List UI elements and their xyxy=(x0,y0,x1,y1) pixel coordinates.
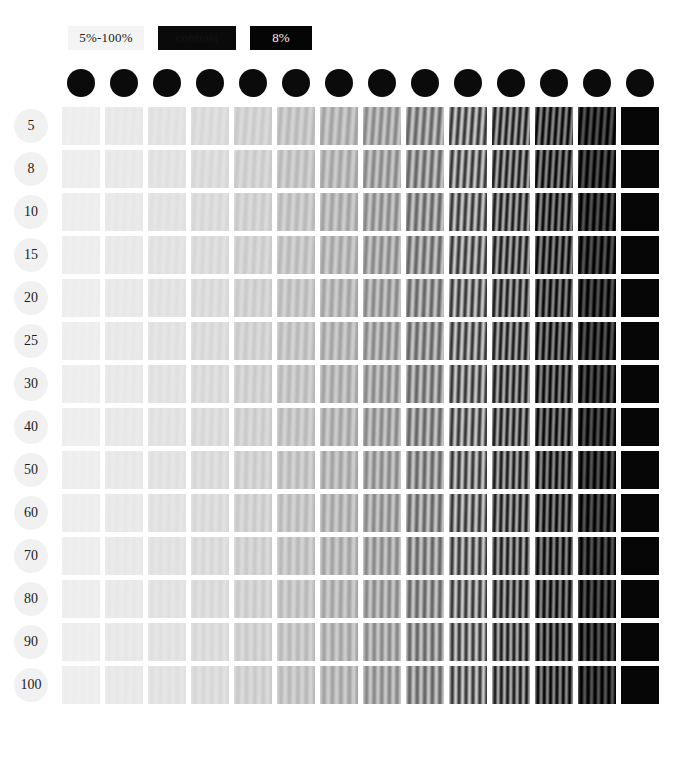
grating-patch[interactable] xyxy=(492,236,530,274)
row-label-8[interactable]: 8 xyxy=(0,152,62,186)
row-label-60[interactable]: 60 xyxy=(0,496,62,530)
grating-patch[interactable] xyxy=(105,279,143,317)
grating-patch[interactable] xyxy=(578,107,616,145)
column-header-14[interactable] xyxy=(621,69,659,97)
grating-patch[interactable] xyxy=(62,322,100,360)
column-header-7[interactable] xyxy=(320,69,358,97)
row-label-25[interactable]: 25 xyxy=(0,324,62,358)
grating-patch[interactable] xyxy=(148,150,186,188)
grating-patch[interactable] xyxy=(320,107,358,145)
grating-patch[interactable] xyxy=(406,365,444,403)
grating-patch[interactable] xyxy=(535,322,573,360)
grating-patch[interactable] xyxy=(234,107,272,145)
grating-patch[interactable] xyxy=(578,365,616,403)
row-label-15[interactable]: 15 xyxy=(0,238,62,272)
grating-patch[interactable] xyxy=(320,322,358,360)
grating-patch[interactable] xyxy=(320,150,358,188)
grating-patch[interactable] xyxy=(105,580,143,618)
grating-patch[interactable] xyxy=(621,666,659,704)
grating-patch[interactable] xyxy=(191,322,229,360)
grating-patch[interactable] xyxy=(62,365,100,403)
grating-patch[interactable] xyxy=(62,494,100,532)
grating-patch[interactable] xyxy=(191,279,229,317)
grating-patch[interactable] xyxy=(406,322,444,360)
grating-patch[interactable] xyxy=(234,494,272,532)
grating-patch[interactable] xyxy=(320,666,358,704)
grating-patch[interactable] xyxy=(148,666,186,704)
grating-patch[interactable] xyxy=(621,451,659,489)
grating-patch[interactable] xyxy=(406,451,444,489)
grating-patch[interactable] xyxy=(148,236,186,274)
grating-patch[interactable] xyxy=(277,193,315,231)
grating-patch[interactable] xyxy=(62,580,100,618)
grating-patch[interactable] xyxy=(148,365,186,403)
grating-patch[interactable] xyxy=(320,494,358,532)
grating-patch[interactable] xyxy=(191,236,229,274)
grating-patch[interactable] xyxy=(621,322,659,360)
grating-patch[interactable] xyxy=(105,150,143,188)
grating-patch[interactable] xyxy=(234,408,272,446)
grating-patch[interactable] xyxy=(578,279,616,317)
grating-patch[interactable] xyxy=(277,236,315,274)
row-label-80[interactable]: 80 xyxy=(0,582,62,616)
column-header-2[interactable] xyxy=(105,69,143,97)
grating-patch[interactable] xyxy=(363,365,401,403)
column-header-10[interactable] xyxy=(449,69,487,97)
grating-patch[interactable] xyxy=(449,580,487,618)
grating-patch[interactable] xyxy=(320,236,358,274)
grating-patch[interactable] xyxy=(406,236,444,274)
grating-patch[interactable] xyxy=(191,365,229,403)
row-label-90[interactable]: 90 xyxy=(0,625,62,659)
grating-patch[interactable] xyxy=(363,107,401,145)
grating-patch[interactable] xyxy=(535,494,573,532)
grating-patch[interactable] xyxy=(62,150,100,188)
grating-patch[interactable] xyxy=(234,322,272,360)
grating-patch[interactable] xyxy=(320,623,358,661)
grating-patch[interactable] xyxy=(578,150,616,188)
grating-patch[interactable] xyxy=(535,666,573,704)
grating-patch[interactable] xyxy=(535,580,573,618)
grating-patch[interactable] xyxy=(191,494,229,532)
grating-patch[interactable] xyxy=(105,107,143,145)
grating-patch[interactable] xyxy=(363,666,401,704)
grating-patch[interactable] xyxy=(535,150,573,188)
grating-patch[interactable] xyxy=(535,193,573,231)
grating-patch[interactable] xyxy=(191,623,229,661)
grating-patch[interactable] xyxy=(363,150,401,188)
grating-patch[interactable] xyxy=(578,408,616,446)
grating-patch[interactable] xyxy=(363,236,401,274)
grating-patch[interactable] xyxy=(148,193,186,231)
grating-patch[interactable] xyxy=(234,193,272,231)
grating-patch[interactable] xyxy=(621,193,659,231)
grating-patch[interactable] xyxy=(320,193,358,231)
row-label-40[interactable]: 40 xyxy=(0,410,62,444)
grating-patch[interactable] xyxy=(492,193,530,231)
grating-patch[interactable] xyxy=(320,537,358,575)
grating-patch[interactable] xyxy=(148,494,186,532)
grating-patch[interactable] xyxy=(191,580,229,618)
grating-patch[interactable] xyxy=(535,107,573,145)
grating-patch[interactable] xyxy=(621,107,659,145)
grating-patch[interactable] xyxy=(578,623,616,661)
grating-patch[interactable] xyxy=(535,537,573,575)
grating-patch[interactable] xyxy=(105,236,143,274)
grating-patch[interactable] xyxy=(320,580,358,618)
grating-patch[interactable] xyxy=(148,537,186,575)
grating-patch[interactable] xyxy=(578,666,616,704)
grating-patch[interactable] xyxy=(492,365,530,403)
grating-patch[interactable] xyxy=(406,494,444,532)
grating-patch[interactable] xyxy=(578,494,616,532)
grating-patch[interactable] xyxy=(62,193,100,231)
grating-patch[interactable] xyxy=(578,236,616,274)
grating-patch[interactable] xyxy=(363,451,401,489)
grating-patch[interactable] xyxy=(449,408,487,446)
grating-patch[interactable] xyxy=(105,451,143,489)
grating-patch[interactable] xyxy=(621,236,659,274)
column-header-3[interactable] xyxy=(148,69,186,97)
grating-patch[interactable] xyxy=(277,365,315,403)
grating-patch[interactable] xyxy=(535,279,573,317)
grating-patch[interactable] xyxy=(449,623,487,661)
grating-patch[interactable] xyxy=(234,580,272,618)
grating-patch[interactable] xyxy=(492,451,530,489)
grating-patch[interactable] xyxy=(277,150,315,188)
